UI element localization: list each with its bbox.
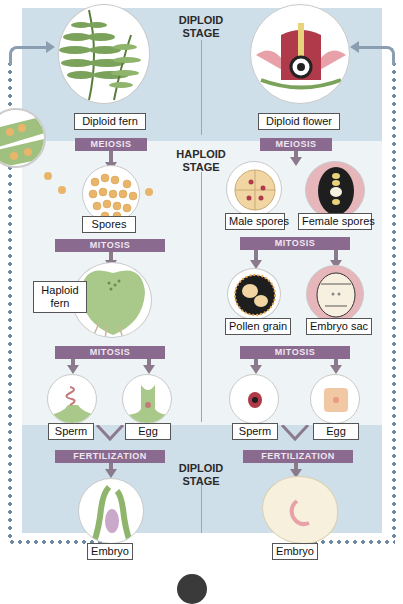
spore-dot: [58, 186, 66, 194]
flower-sperm-label: Sperm: [232, 423, 278, 440]
arrow-down-icon: [330, 365, 342, 374]
center-divider: [201, 172, 202, 422]
diploid-flower-illustration: [250, 4, 350, 104]
fern-embryo-label: Embryo: [87, 543, 133, 560]
megaspore-icon: [306, 162, 365, 219]
embryo-sac-icon: [307, 266, 364, 323]
fern-egg-illustration: [122, 374, 172, 424]
fern-fertilization-bar: FERTILIZATION: [55, 450, 165, 463]
flower-egg-illustration: [310, 374, 360, 424]
stage-label-line: STAGE: [161, 161, 241, 174]
arrow-down-icon: [67, 365, 79, 374]
fern-meiosis-bar: MEIOSIS: [75, 138, 147, 151]
antheridium-icon: [48, 375, 97, 424]
arrow-down-icon: [290, 157, 302, 166]
haploid-stage-label: HAPLOID STAGE: [161, 148, 241, 174]
fern-sperm-label: Sperm: [48, 423, 94, 440]
arrow-down-icon: [250, 365, 262, 374]
stage-label-line: STAGE: [161, 475, 241, 488]
pollen-icon: [228, 269, 281, 320]
label-line: Haploid: [37, 284, 83, 297]
partial-illustration-cutoff: [177, 574, 207, 604]
diploid-fern-label: Diploid fern: [74, 113, 146, 130]
embryo-sac-label: Embryo sac: [306, 318, 372, 335]
fern-mitosis-bar-1: MITOSIS: [55, 239, 165, 252]
egg-cell-icon: [311, 375, 360, 424]
fern-frond-icon: [59, 5, 150, 104]
male-spores-label: Male spores: [225, 213, 285, 230]
spores-label: Spores: [82, 216, 136, 233]
spores-icon: [83, 166, 140, 223]
fern-mitosis-bar-2: MITOSIS: [55, 346, 165, 359]
flower-meiosis-bar: MEIOSIS: [260, 138, 332, 151]
stage-label-line: HAPLOID: [161, 148, 241, 161]
spores-illustration: [82, 165, 140, 223]
microspore-icon: [227, 162, 282, 217]
flower-egg-label: Egg: [313, 423, 359, 440]
haploid-fern-label: Haploid fern: [33, 281, 87, 313]
flower-embryo-illustration: [262, 476, 338, 544]
flower-sperm-illustration: [229, 374, 279, 424]
female-spores-illustration: [305, 161, 365, 219]
flower-embryo-label: Embryo: [272, 543, 318, 560]
pollen-grain-illustration: [227, 268, 281, 320]
seed-embryo-icon: [263, 477, 337, 543]
diploid-flower-label: Diploid flower: [258, 113, 340, 130]
flower-mitosis-bar-1: MITOSIS: [240, 237, 350, 250]
label-line: fern: [37, 297, 83, 310]
flower-cycle-return-arrow: [358, 46, 395, 65]
fern-egg-label: Egg: [125, 423, 171, 440]
stage-label-line: DIPLOID: [161, 462, 241, 475]
arrow-down-icon: [143, 365, 155, 374]
pollen-grain-label: Pollen grain: [225, 318, 291, 335]
stage-label-line: STAGE: [161, 27, 241, 40]
embryo-icon: [79, 479, 144, 544]
flower-fertilization-bar: FERTILIZATION: [243, 450, 353, 463]
spore-dot: [145, 188, 153, 196]
arrow-down-icon: [105, 469, 117, 478]
fertilization-merge-lines: [95, 425, 125, 445]
arrow-head-icon: [350, 41, 359, 53]
spore-dot: [44, 172, 52, 180]
flower-icon: [251, 5, 350, 104]
female-spores-label: Female spores: [298, 213, 372, 230]
flower-mitosis-bar-2: MITOSIS: [240, 346, 350, 359]
diploid-stage-label-bottom: DIPLOID STAGE: [161, 462, 241, 488]
embryo-sac-illustration: [306, 265, 364, 323]
arrow-head-icon: [46, 41, 55, 53]
male-spores-illustration: [226, 161, 282, 217]
fern-embryo-illustration: [78, 478, 144, 544]
archegonium-icon: [123, 375, 172, 424]
fern-sperm-illustration: [47, 374, 97, 424]
sperm-cell-icon: [230, 375, 279, 424]
diploid-fern-illustration: [58, 4, 150, 104]
flower-cycle-dotted-line: [392, 60, 396, 540]
diploid-stage-label-top: DIPLOID STAGE: [161, 14, 241, 40]
center-divider: [201, 40, 202, 135]
stage-label-line: DIPLOID: [161, 14, 241, 27]
fertilization-merge-lines: [280, 425, 310, 445]
